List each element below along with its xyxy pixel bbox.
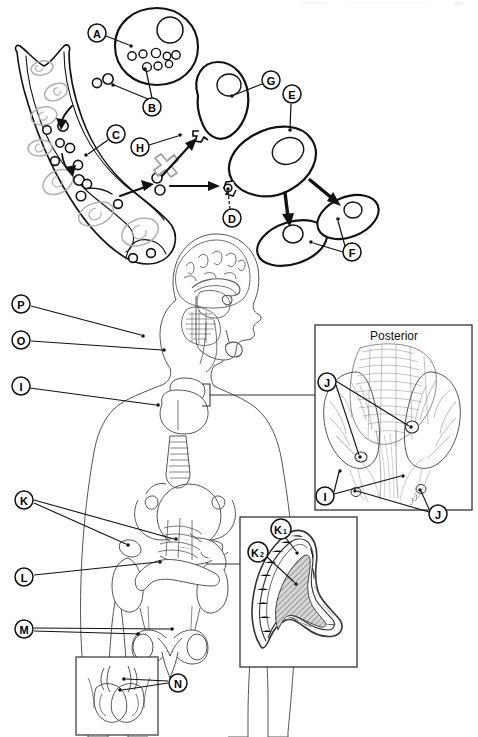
trachea (166, 436, 190, 488)
label-I-inset-text: I (323, 491, 326, 503)
label-K[interactable]: K (15, 491, 33, 509)
label-F-text: F (349, 247, 356, 259)
precursor-cell (76, 191, 86, 201)
precursor-cell (129, 254, 138, 263)
label-O[interactable]: O (12, 331, 30, 349)
label-I-text: I (19, 381, 22, 393)
precursor-cell (82, 179, 91, 188)
label-N[interactable]: N (169, 674, 187, 692)
precursor-cell (43, 126, 51, 134)
label-E-text: E (288, 89, 295, 101)
label-J-upper-text: J (324, 377, 330, 389)
label-E[interactable]: E (283, 85, 301, 103)
label-K2-text: K (251, 547, 259, 559)
label-K2[interactable]: K 2 (248, 542, 268, 562)
label-A[interactable]: A (88, 24, 106, 42)
label-G[interactable]: G (262, 71, 280, 89)
label-G-text: G (267, 75, 276, 87)
label-J-upper[interactable]: J (318, 373, 336, 391)
label-B-text: B (148, 102, 156, 114)
label-C-text: C (112, 129, 120, 141)
large-round-cell-A (115, 8, 198, 85)
label-I[interactable]: I (12, 377, 30, 395)
label-L[interactable]: L (15, 568, 33, 586)
inset-posterior-title: Posterior (370, 329, 418, 343)
released-cell (155, 185, 165, 195)
precursor-cell (65, 143, 74, 152)
label-K2-subscript: 2 (260, 551, 264, 558)
label-M[interactable]: M (15, 620, 33, 638)
precursor-cell (51, 157, 60, 166)
inset-testes-frame (76, 657, 158, 735)
inset-testes (76, 657, 158, 735)
cell-G-membrane (196, 62, 248, 139)
label-D-text: D (228, 213, 236, 225)
precursor-cell (147, 249, 156, 258)
label-P-text: P (17, 299, 24, 311)
label-K1[interactable]: K 1 (271, 519, 291, 539)
cell-A-membrane (115, 8, 198, 85)
label-A-text: A (93, 28, 101, 40)
label-M-text: M (19, 624, 28, 636)
label-K-text: K (20, 495, 28, 507)
label-K1-text: K (274, 524, 282, 536)
anatomy-figure: Posterior (0, 0, 478, 737)
label-O-text: O (17, 335, 26, 347)
label-K1-subscript: 1 (283, 528, 287, 535)
label-B[interactable]: B (143, 98, 161, 116)
label-N-text: N (174, 678, 182, 690)
thyroid-gland (160, 390, 208, 434)
label-J-lower[interactable]: J (429, 505, 447, 523)
label-D[interactable]: D (223, 209, 241, 227)
figure-canvas: Posterior (0, 0, 478, 737)
label-H[interactable]: H (131, 138, 149, 156)
label-C[interactable]: C (107, 125, 125, 143)
released-cell (92, 78, 101, 87)
label-J-lower-text: J (435, 509, 441, 521)
label-P[interactable]: P (12, 295, 30, 313)
precursor-cell (114, 200, 123, 209)
label-H-text: H (136, 142, 144, 154)
label-F[interactable]: F (343, 243, 361, 261)
ovary-right (187, 634, 207, 660)
label-I-inset[interactable]: I (316, 487, 334, 505)
released-cell (103, 74, 113, 84)
ovary-left (133, 634, 153, 660)
label-L-text: L (21, 572, 28, 584)
precursor-cell (56, 139, 64, 147)
